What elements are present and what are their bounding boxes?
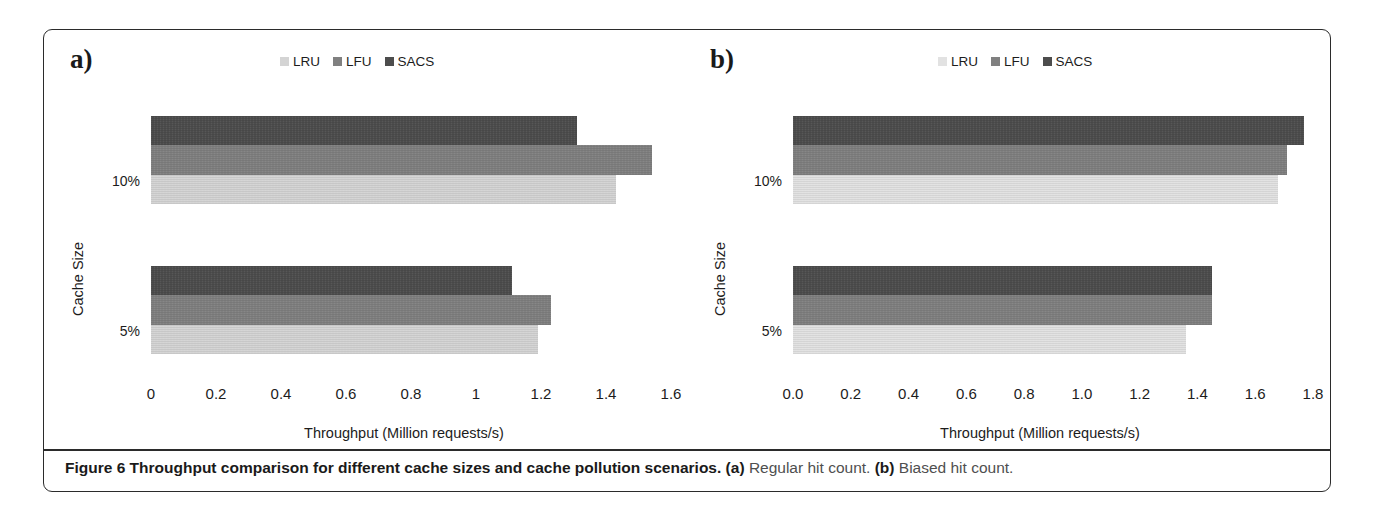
caption-divider (44, 449, 1330, 451)
bar-group-10pct-a (151, 116, 671, 204)
x-tick-label: 0.4 (898, 385, 919, 402)
bar-group-10pct-b (793, 116, 1313, 204)
x-axis-title-a: Throughput (Million requests/s) (82, 425, 726, 441)
x-tick-label: 0.8 (1014, 385, 1035, 402)
legend-item-lru: LRU (280, 54, 320, 69)
bar-row-sacs-10pct-b (793, 116, 1313, 145)
x-tick-label: 0.4 (271, 385, 292, 402)
x-axis-title-b: Throughput (Million requests/s) (718, 425, 1362, 441)
legend-panel-b: LRU LFU SACS (938, 54, 1092, 69)
bar-lfu-10pct-b (793, 145, 1287, 174)
bar-sacs-10pct-a (151, 116, 577, 145)
bar-lru-5pct-a (151, 325, 538, 354)
x-tick-label: 0.0 (783, 385, 804, 402)
bar-row-lfu-10pct-b (793, 145, 1313, 174)
y-axis-title-b: Cache Size (712, 242, 728, 316)
bar-group-5pct-a (151, 266, 671, 354)
bar-row-lru-5pct-b (793, 325, 1313, 354)
x-tick-label: 1.2 (1129, 385, 1150, 402)
category-label-10pct-b: 10% (708, 173, 782, 189)
legend-swatch-lfu-b (991, 57, 1000, 66)
chart-panel-b: b) LRU LFU SACS Cache Size 10% 5% (688, 30, 1332, 440)
category-label-5pct-b: 5% (708, 323, 782, 339)
x-tick-label: 0.2 (840, 385, 861, 402)
plot-area-a (151, 94, 671, 389)
bar-row-lru-10pct-a (151, 175, 671, 204)
bar-sacs-5pct-a (151, 266, 512, 295)
chart-panel-a: a) LRU LFU SACS Cache Size 10% 5% (44, 30, 688, 440)
caption-a-tag: (a) (726, 459, 745, 476)
legend-item-lfu: LFU (333, 54, 372, 69)
bar-sacs-5pct-b (793, 266, 1212, 295)
bar-lru-10pct-a (151, 175, 616, 204)
bar-lfu-10pct-a (151, 145, 652, 174)
bar-row-lru-5pct-a (151, 325, 671, 354)
legend-item-sacs-b: SACS (1043, 54, 1093, 69)
x-tick-label: 0.2 (206, 385, 227, 402)
category-label-5pct-a: 5% (66, 323, 140, 339)
bar-row-sacs-10pct-a (151, 116, 671, 145)
caption-main: Figure 6 Throughput comparison for diffe… (65, 459, 721, 476)
bar-row-lru-10pct-b (793, 175, 1313, 204)
legend-swatch-sacs-b (1043, 57, 1052, 66)
x-tick-label: 1.6 (1245, 385, 1266, 402)
legend-label-sacs: SACS (398, 54, 435, 69)
caption-b-tag: (b) (875, 459, 895, 476)
legend-swatch-lfu (333, 57, 342, 66)
x-tick-label: 1.0 (1071, 385, 1092, 402)
legend-panel-a: LRU LFU SACS (280, 54, 434, 69)
x-axis-ticks-b: 0.00.20.40.60.81.01.21.41.61.8 (793, 385, 1313, 409)
bar-row-sacs-5pct-b (793, 266, 1313, 295)
bar-row-sacs-5pct-a (151, 266, 671, 295)
legend-swatch-sacs (385, 57, 394, 66)
x-tick-label: 1.2 (531, 385, 552, 402)
legend-item-sacs: SACS (385, 54, 435, 69)
legend-label-lfu-b: LFU (1004, 54, 1030, 69)
legend-label-lfu: LFU (346, 54, 372, 69)
x-tick-label: 1.8 (1303, 385, 1324, 402)
x-tick-label: 1.4 (596, 385, 617, 402)
legend-item-lru-b: LRU (938, 54, 978, 69)
legend-label-lru-b: LRU (951, 54, 978, 69)
bar-lfu-5pct-a (151, 295, 551, 324)
legend-swatch-lru (280, 57, 289, 66)
x-tick-label: 0.6 (336, 385, 357, 402)
x-tick-label: 0.8 (401, 385, 422, 402)
plot-area-b (793, 94, 1313, 389)
x-tick-label: 0.6 (956, 385, 977, 402)
legend-label-lru: LRU (293, 54, 320, 69)
legend-swatch-lru-b (938, 57, 947, 66)
x-tick-label: 1.6 (661, 385, 682, 402)
bar-row-lfu-5pct-a (151, 295, 671, 324)
figure-caption: Figure 6 Throughput comparison for diffe… (65, 458, 1314, 478)
bar-lru-10pct-b (793, 175, 1278, 204)
x-tick-label: 1.4 (1187, 385, 1208, 402)
x-axis-ticks-a: 00.20.40.60.811.21.41.6 (151, 385, 671, 409)
figure-frame: a) LRU LFU SACS Cache Size 10% 5% (43, 29, 1331, 492)
bar-row-lfu-10pct-a (151, 145, 671, 174)
caption-b-text: Biased hit count. (899, 459, 1014, 476)
bar-lfu-5pct-b (793, 295, 1212, 324)
caption-a-text: Regular hit count. (749, 459, 871, 476)
y-axis-title-a: Cache Size (70, 242, 86, 316)
bar-row-lfu-5pct-b (793, 295, 1313, 324)
bar-lru-5pct-b (793, 325, 1186, 354)
panel-label-a: a) (70, 44, 93, 75)
legend-item-lfu-b: LFU (991, 54, 1030, 69)
x-tick-label: 1 (472, 385, 480, 402)
bar-group-5pct-b (793, 266, 1313, 354)
category-label-10pct-a: 10% (66, 173, 140, 189)
x-tick-label: 0 (147, 385, 155, 402)
panel-label-b: b) (710, 44, 734, 75)
bar-sacs-10pct-b (793, 116, 1304, 145)
legend-label-sacs-b: SACS (1056, 54, 1093, 69)
